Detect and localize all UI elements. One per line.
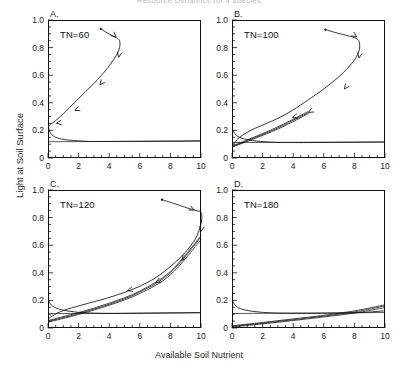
x-tick-label: 2: [253, 161, 273, 171]
panel-d: D.TN=18000.20.40.60.81.00246810: [232, 190, 385, 328]
x-tick-label: 0: [38, 331, 58, 341]
y-tick-label: 1.0: [22, 15, 44, 25]
x-tick-label: 8: [344, 331, 364, 341]
plot-canvas: [232, 20, 385, 158]
x-tick-label: 4: [99, 331, 119, 341]
x-axis-label: Available Soil Nutrient: [0, 350, 398, 360]
panel-letter: C.: [50, 179, 59, 189]
y-tick-label: 0.4: [206, 98, 228, 108]
y-tick-label: 0.6: [206, 240, 228, 250]
y-tick-label: 1.0: [22, 185, 44, 195]
y-tick-label: 1.0: [206, 185, 228, 195]
direction-arrow: [75, 107, 80, 111]
y-tick-label: 0.8: [206, 213, 228, 223]
x-tick-label: 4: [283, 331, 303, 341]
series-nutrient-isocline-bundle: [232, 305, 385, 327]
y-tick-label: 0.2: [22, 295, 44, 305]
panel-b: B.TN=10000.20.40.60.81.00246810: [232, 20, 385, 158]
x-tick-label: 10: [375, 331, 395, 341]
plot-canvas: [232, 190, 385, 328]
y-tick-label: 0.8: [22, 43, 44, 53]
y-tick-label: 0.6: [206, 70, 228, 80]
x-tick-label: 0: [222, 161, 242, 171]
x-tick-label: 2: [253, 331, 273, 341]
direction-arrow: [309, 108, 314, 112]
direction-arrow: [352, 32, 357, 37]
series-light-decay-curve: [232, 300, 385, 314]
y-tick-label: 0.2: [206, 125, 228, 135]
panel-tag-tn-120: TN=120: [60, 199, 95, 210]
y-tick-label: 1.0: [206, 15, 228, 25]
series-light-decay-curve: [48, 127, 201, 142]
y-tick-label: 0.8: [22, 213, 44, 223]
panel-tag-tn-60: TN=60: [60, 29, 89, 40]
direction-arrow: [56, 120, 61, 124]
y-tick-label: 0.4: [22, 268, 44, 278]
x-tick-label: 6: [314, 161, 334, 171]
y-tick-label: 0.6: [22, 70, 44, 80]
series-equilibrium-line: [48, 313, 201, 314]
x-tick-label: 6: [130, 161, 150, 171]
panel-letter: B.: [234, 9, 243, 19]
panel-c: C.TN=12000.20.40.60.81.00246810: [48, 190, 201, 328]
series-light-decay-curve: [232, 128, 385, 142]
x-tick-label: 6: [314, 331, 334, 341]
y-tick-label: 0.2: [22, 125, 44, 135]
y-tick-label: 0.8: [206, 43, 228, 53]
series-trajectory: [49, 28, 122, 126]
y-tick-label: 0.4: [206, 268, 228, 278]
x-tick-label: 4: [283, 161, 303, 171]
tick-marks: [48, 190, 201, 328]
series-nutrient-isocline-bundle: [48, 236, 201, 322]
direction-arrow: [100, 80, 105, 85]
x-tick-label: 6: [130, 331, 150, 341]
x-tick-label: 2: [69, 161, 89, 171]
panel-a: A.TN=6000.20.40.60.81.00246810: [48, 20, 201, 158]
figure-root: Resource Dynamics for 4 species Light at…: [0, 0, 398, 369]
x-tick-label: 4: [99, 161, 119, 171]
y-tick-label: 0.4: [22, 98, 44, 108]
y-tick-label: 0.2: [206, 295, 228, 305]
series-equilibrium-line: [48, 141, 201, 142]
x-tick-label: 0: [38, 161, 58, 171]
figure-title: Resource Dynamics for 4 species: [0, 0, 398, 3]
tick-marks: [48, 20, 201, 158]
panel-tag-tn-100: TN=100: [244, 29, 279, 40]
series-equilibrium-line: [232, 313, 385, 314]
series-trajectory: [234, 29, 362, 145]
x-tick-label: 8: [344, 161, 364, 171]
series-light-decay-curve: [48, 299, 201, 313]
direction-arrow: [344, 84, 349, 89]
panel-letter: D.: [234, 179, 243, 189]
x-tick-label: 8: [160, 161, 180, 171]
x-tick-label: 8: [160, 331, 180, 341]
series-trajectory: [49, 199, 204, 319]
x-tick-label: 10: [375, 161, 395, 171]
plot-canvas: [48, 190, 201, 328]
panel-letter: A.: [50, 9, 59, 19]
plot-canvas: [48, 20, 201, 158]
y-tick-label: 0.6: [22, 240, 44, 250]
x-tick-label: 2: [69, 331, 89, 341]
direction-arrow: [111, 32, 116, 37]
tick-marks: [232, 190, 385, 328]
panel-tag-tn-180: TN=180: [244, 199, 279, 210]
x-tick-label: 0: [222, 331, 242, 341]
